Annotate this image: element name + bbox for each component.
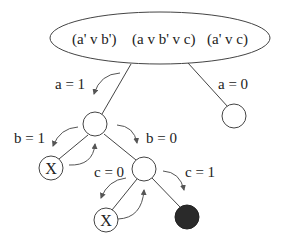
node-b0: [132, 157, 156, 181]
node-c0-conflict: X: [94, 208, 118, 232]
edge-label-a1: a = 1: [55, 76, 85, 92]
edge-label-a0: a = 0: [218, 76, 248, 92]
edge-a1: [102, 64, 131, 114]
clause-3: (a' v c): [207, 31, 248, 48]
search-tree-diagram: (a' v b') (a v b' v c) (a' v c) a = 1 a …: [0, 0, 281, 247]
node-a0: [222, 104, 246, 128]
edge-c0: [112, 179, 137, 210]
curved-arrow-down-icon: [101, 178, 126, 198]
conflict-x-label: X: [100, 212, 112, 229]
conflict-x-label: X: [45, 160, 57, 177]
node-b1-conflict: X: [39, 156, 63, 180]
node-c1-solution: [175, 205, 199, 229]
curved-arrow-down-icon: [163, 171, 184, 190]
edge-label-b1: b = 1: [14, 130, 45, 146]
root-formula-node: (a' v b') (a v b' v c) (a' v c): [50, 12, 270, 64]
edge-label-c0: c = 0: [94, 164, 124, 180]
curved-arrow-down-icon: [117, 125, 137, 143]
edge-label-c1: c = 1: [185, 164, 215, 180]
clause-1: (a' v b'): [72, 31, 117, 48]
clause-2: (a v b' v c): [132, 31, 196, 48]
node-a1: [83, 112, 107, 136]
curved-arrow-down-icon: [94, 73, 120, 94]
edge-b0: [104, 134, 136, 160]
edge-b1: [59, 135, 88, 159]
curved-arrow-up-icon: [118, 190, 144, 219]
curved-arrow-down-icon: [53, 127, 78, 146]
edge-label-b0: b = 0: [146, 130, 177, 146]
edge-c1: [152, 178, 180, 207]
